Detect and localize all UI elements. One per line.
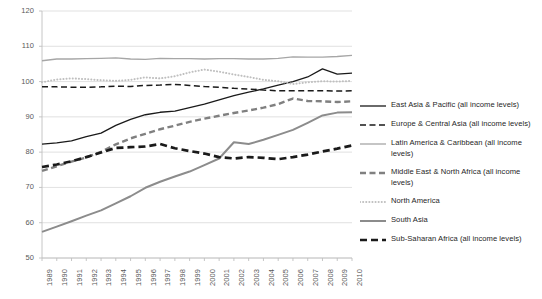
series-line-1	[42, 84, 352, 91]
series-line-6	[42, 144, 352, 167]
y-tick-label: 90	[8, 112, 34, 121]
x-tick-label: 2008	[326, 269, 335, 286]
legend-line-swatch-icon	[360, 119, 386, 130]
x-tick-label: 2007	[311, 269, 320, 286]
legend-item-label: Middle East & North Africa (all income l…	[391, 167, 542, 188]
x-tick-label: 1993	[104, 269, 113, 286]
x-tick-label: 2005	[281, 269, 290, 286]
x-tick-label: 2003	[252, 269, 261, 286]
legend-item-label: South Asia	[391, 215, 428, 226]
legend-item-label: North America	[391, 196, 440, 207]
x-tick-label: 2010	[355, 269, 364, 286]
x-tick-label: 2000	[208, 269, 217, 286]
x-tick-label: 1991	[75, 269, 84, 286]
x-tick-label: 1997	[163, 269, 172, 286]
x-tick-label: 2004	[267, 269, 276, 286]
legend-item[interactable]: Europe & Central Asia (all income levels…	[360, 119, 542, 130]
legend-line-swatch-icon	[360, 138, 386, 149]
legend-line-swatch-icon	[360, 215, 386, 226]
series-line-2	[42, 55, 352, 60]
chart-legend: East Asia & Pacific (all income levels)E…	[360, 100, 542, 253]
legend-item[interactable]: Latin America & Caribbean (all income le…	[360, 138, 542, 159]
x-tick-label: 2001	[222, 269, 231, 286]
y-tick-label: 120	[8, 6, 34, 15]
legend-line-swatch-icon	[360, 196, 386, 207]
series-line-3	[42, 99, 352, 171]
legend-item[interactable]: Middle East & North Africa (all income l…	[360, 167, 542, 188]
x-tick-label: 1996	[149, 269, 158, 286]
legend-item-label: Sub-Saharan Africa (all income levels)	[391, 234, 522, 245]
y-tick-label: 100	[8, 77, 34, 86]
x-tick-label: 2002	[237, 269, 246, 286]
legend-line-swatch-icon	[360, 234, 386, 245]
x-tick-label: 2009	[340, 269, 349, 286]
y-tick-label: 50	[8, 253, 34, 262]
x-tick-label: 1990	[60, 269, 69, 286]
legend-item[interactable]: South Asia	[360, 215, 542, 226]
legend-item[interactable]: Sub-Saharan Africa (all income levels)	[360, 234, 542, 245]
y-tick-label: 110	[8, 41, 34, 50]
x-tick-label: 1998	[178, 269, 187, 286]
grid-lines	[42, 11, 352, 258]
legend-item-label: East Asia & Pacific (all income levels)	[391, 100, 519, 111]
legend-line-swatch-icon	[360, 100, 386, 111]
series-line-5	[42, 112, 352, 232]
y-tick-label: 70	[8, 182, 34, 191]
y-tick-label: 80	[8, 147, 34, 156]
legend-item-label: Latin America & Caribbean (all income le…	[391, 138, 542, 159]
x-tick-label: 1995	[134, 269, 143, 286]
legend-line-swatch-icon	[360, 167, 386, 178]
x-tick-label: 2006	[296, 269, 305, 286]
legend-item[interactable]: North America	[360, 196, 542, 207]
x-tick-label: 1989	[45, 269, 54, 286]
legend-item-label: Europe & Central Asia (all income levels…	[391, 119, 531, 130]
y-tick-label: 60	[8, 218, 34, 227]
x-tick-label: 1994	[119, 269, 128, 286]
x-tick-label: 1999	[193, 269, 202, 286]
legend-item[interactable]: East Asia & Pacific (all income levels)	[360, 100, 542, 111]
chart-container: 1201101009080706050 19891990199119921993…	[0, 0, 542, 299]
x-tick-label: 1992	[90, 269, 99, 286]
